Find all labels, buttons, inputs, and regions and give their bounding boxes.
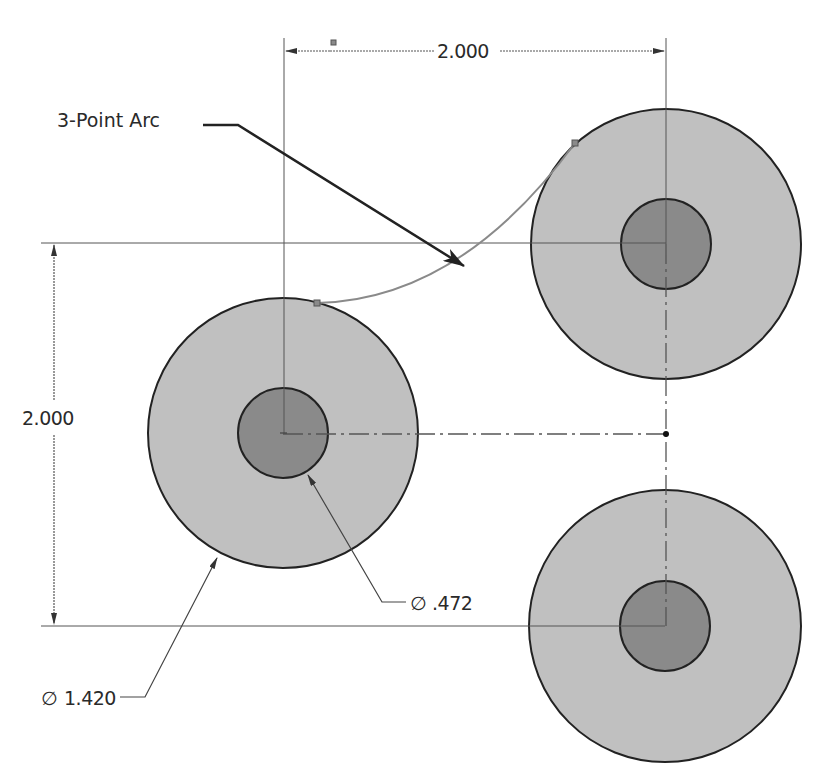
- inner-diameter-dimension[interactable]: ∅ .472: [410, 592, 472, 614]
- dimension-handle-icon[interactable]: [331, 40, 336, 45]
- inner-diameter-value[interactable]: .472: [432, 592, 472, 614]
- arc-callout-leader: [203, 125, 464, 266]
- arc-endpoint-handle-end-icon[interactable]: [572, 140, 578, 146]
- horizontal-dimension-value[interactable]: 2.000: [437, 40, 489, 62]
- diameter-symbol-icon: ∅: [410, 592, 426, 614]
- vertical-dimension-value[interactable]: 2.000: [22, 407, 74, 429]
- outer-diameter-value[interactable]: 1.420: [64, 687, 116, 709]
- arc-endpoint-handle-start-icon[interactable]: [314, 300, 320, 306]
- outer-diameter-dimension[interactable]: ∅ 1.420: [41, 687, 116, 709]
- arc-callout-label: 3-Point Arc: [57, 109, 160, 131]
- sketch-drawing: 2.000 2.000 3-Point Arc ∅ 1.420 ∅ .472: [0, 0, 832, 779]
- diameter-symbol-icon: ∅: [41, 687, 57, 709]
- centerline-intersection-point[interactable]: [663, 431, 669, 437]
- outer-diameter-leader: [120, 558, 217, 697]
